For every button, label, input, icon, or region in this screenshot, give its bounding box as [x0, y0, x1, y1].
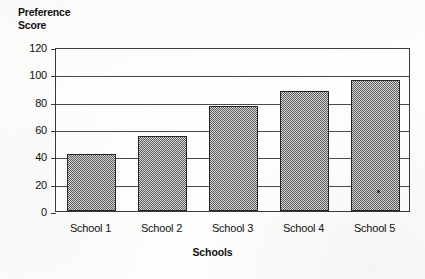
bar: [209, 106, 258, 211]
y-tick-label: 40: [1, 151, 47, 163]
y-tick-mark: [51, 131, 56, 132]
y-axis-title: Preference Score: [18, 6, 70, 31]
y-tick-mark: [51, 213, 56, 214]
y-tick-mark: [51, 49, 56, 50]
y-tick-mark: [51, 158, 56, 159]
y-tick-label: 20: [1, 179, 47, 191]
bar: [351, 80, 400, 211]
scan-speck: [377, 190, 380, 193]
x-tick-label: School 1: [55, 222, 126, 234]
x-tick-label: School 3: [197, 222, 268, 234]
plot-area: [55, 48, 410, 212]
y-tick-label: 120: [1, 42, 47, 54]
x-tick-label: School 5: [339, 222, 410, 234]
y-tick-label: 0: [1, 206, 47, 218]
bar: [67, 154, 116, 211]
x-tick-label: School 4: [268, 222, 339, 234]
y-tick-label: 60: [1, 124, 47, 136]
y-tick-label: 80: [1, 97, 47, 109]
y-tick-mark: [51, 104, 56, 105]
y-tick-label: 100: [1, 69, 47, 81]
y-tick-mark: [51, 76, 56, 77]
bar: [280, 91, 329, 211]
y-tick-mark: [51, 186, 56, 187]
x-axis-title: Schools: [0, 246, 425, 258]
x-tick-label: School 2: [126, 222, 197, 234]
bar: [138, 136, 187, 211]
bar-chart-screenshot: Preference Score 020406080100120 School …: [0, 0, 425, 279]
gridline: [56, 76, 409, 77]
